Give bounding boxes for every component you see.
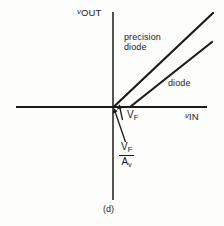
precision-diode-label: precision diode bbox=[124, 33, 161, 52]
x-axis-label-subscript: IN bbox=[189, 111, 199, 122]
vf-label: VF bbox=[127, 110, 138, 122]
fraction-numerator-symbol: V bbox=[121, 141, 128, 152]
vf-over-av-label: VF Av bbox=[119, 142, 134, 169]
y-axis-label: vOUT bbox=[77, 8, 101, 19]
x-axis-label: vIN bbox=[185, 112, 199, 123]
fraction-numerator: VF bbox=[119, 142, 134, 154]
precision-diode-label-line1: precision bbox=[124, 32, 161, 42]
precision-diode-label-line2: diode bbox=[124, 43, 161, 53]
diode-label: diode bbox=[168, 79, 191, 89]
fraction-denominator: Av bbox=[119, 157, 134, 169]
vf-over-av-leader-arrow bbox=[113, 108, 126, 142]
fraction-denominator-subscript: v bbox=[128, 160, 132, 169]
figure-caption: (d) bbox=[103, 205, 114, 215]
vf-subscript: F bbox=[134, 113, 139, 122]
transfer-characteristic-figure: vOUT vIN precision diode diode VF VF Av … bbox=[0, 0, 224, 226]
y-axis-label-subscript: OUT bbox=[81, 7, 101, 18]
fraction-numerator-subscript: F bbox=[128, 145, 133, 154]
vf-symbol: V bbox=[127, 109, 134, 120]
precision-diode-curve bbox=[114, 13, 214, 107]
